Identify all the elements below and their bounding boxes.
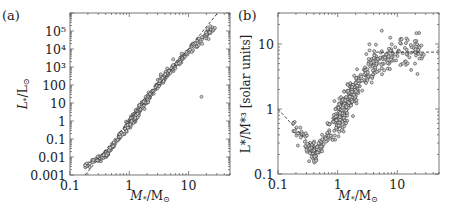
data-point (213, 27, 216, 30)
data-point (399, 64, 402, 67)
data-point (313, 155, 316, 158)
panel-a-data-points (84, 25, 217, 169)
data-point (325, 140, 328, 143)
data-point (415, 32, 418, 35)
panel-b-data-points (292, 29, 426, 164)
data-point (304, 145, 307, 148)
data-point (347, 90, 350, 93)
data-point (331, 138, 334, 141)
data-point (394, 53, 397, 56)
data-point (357, 79, 360, 82)
reference-line-dashed (85, 13, 218, 175)
y-tick-label: 1 (58, 114, 66, 129)
data-point (353, 93, 356, 96)
data-point (129, 123, 132, 126)
data-point (351, 90, 354, 93)
data-point (351, 86, 354, 89)
data-point (321, 138, 324, 141)
data-point (201, 42, 204, 45)
data-point (189, 48, 192, 51)
data-point (88, 166, 91, 169)
data-point (394, 46, 397, 49)
data-point (413, 40, 416, 43)
data-point (328, 123, 331, 126)
data-point (333, 134, 336, 137)
data-point (399, 42, 402, 45)
data-point (335, 126, 338, 129)
data-point (409, 44, 412, 47)
panel-b-y-axis-label: L*/M*³ [solar units] (239, 35, 253, 154)
data-point (366, 68, 369, 71)
data-point (405, 52, 408, 55)
data-point (355, 77, 358, 80)
data-point (372, 57, 375, 60)
data-point (366, 71, 369, 74)
y-tick-label: 0.1 (254, 167, 274, 182)
data-point (368, 43, 371, 46)
panel-b-x-axis-label: M*/M⊙ (337, 189, 377, 204)
data-point (386, 62, 389, 65)
data-point (348, 95, 351, 98)
data-point (303, 140, 306, 143)
data-point (376, 58, 379, 61)
data-point (308, 152, 311, 155)
data-point (361, 89, 364, 92)
data-point (300, 130, 303, 133)
data-point (180, 52, 183, 55)
panel-a-label: (a) (2, 8, 20, 23)
data-point (417, 52, 420, 55)
panel-a-tick-labels: 0.11100.0010.010.111010010³10⁴10⁵ (30, 24, 196, 194)
data-point (406, 62, 409, 65)
data-point (408, 56, 411, 59)
data-point (299, 136, 302, 139)
data-point (172, 58, 175, 61)
data-point (339, 112, 342, 115)
data-point (321, 133, 324, 136)
panel-b-luminosity-over-mass-cubed: (b) 0.11100.1110 M*/M⊙ L*/M*³ [solar uni… (238, 8, 439, 204)
data-point (206, 27, 209, 30)
data-point (333, 100, 336, 103)
data-point (366, 79, 369, 82)
data-point (365, 82, 368, 85)
data-point (404, 42, 407, 45)
panel-a-x-axis-label: M*/M⊙ (129, 189, 169, 204)
data-point (345, 105, 348, 108)
data-point (338, 116, 341, 119)
data-point (315, 159, 318, 162)
data-point (360, 75, 363, 78)
data-point (345, 122, 348, 125)
data-point (384, 56, 387, 59)
data-point (126, 126, 129, 129)
data-point (317, 142, 320, 145)
y-tick-label: 10⁵ (45, 24, 66, 39)
data-point (88, 162, 91, 165)
data-point (335, 119, 338, 122)
data-point (299, 126, 302, 129)
y-tick-label: 10³ (45, 60, 66, 75)
data-point (321, 150, 324, 153)
data-point (84, 164, 87, 167)
data-point (370, 75, 373, 78)
data-point (293, 130, 296, 133)
data-point (380, 63, 383, 66)
data-point (345, 109, 348, 112)
y-tick-label: 0.1 (46, 132, 66, 147)
data-point (112, 145, 115, 148)
data-point (304, 132, 307, 135)
data-point (344, 99, 347, 102)
data-point (380, 29, 383, 32)
x-tick-label: 10 (389, 177, 405, 192)
data-point (338, 130, 341, 133)
panel-b-label: (b) (238, 8, 256, 23)
data-point (360, 79, 363, 82)
data-point (416, 73, 419, 76)
data-point (414, 62, 417, 65)
data-point (410, 68, 413, 71)
data-point (387, 47, 390, 50)
y-tick-label: 10⁴ (45, 42, 66, 57)
data-point (414, 48, 417, 51)
data-point (308, 160, 311, 163)
data-point (355, 99, 358, 102)
data-point (200, 95, 203, 98)
data-point (337, 135, 340, 138)
